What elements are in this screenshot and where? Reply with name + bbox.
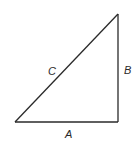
- triangle-diagram: C B A: [0, 0, 136, 149]
- triangle-svg: C B A: [0, 0, 136, 149]
- label-b: B: [124, 64, 131, 76]
- label-a: A: [64, 128, 72, 140]
- label-c: C: [48, 65, 56, 77]
- side-c-hypotenuse: [15, 14, 118, 122]
